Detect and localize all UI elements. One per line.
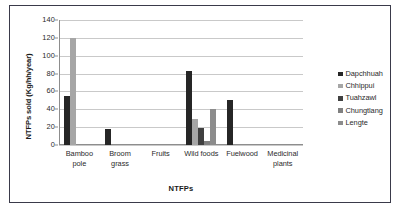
y-axis-tick-label: 40 bbox=[47, 106, 55, 113]
x-axis-tick-labels: Bamboo poleBroom grassFruitsWild foodsFu… bbox=[59, 149, 303, 168]
legend: DapchhuahChhippuiTuahzawlChungtlangLengt… bbox=[338, 70, 383, 127]
y-axis-tick-labels: 020406080100120140 bbox=[28, 20, 55, 145]
legend-item[interactable]: Chhippui bbox=[338, 82, 383, 90]
legend-label: Tuahzawl bbox=[346, 94, 377, 102]
x-axis-tick-label: Bamboo pole bbox=[59, 149, 100, 168]
legend-item[interactable]: Chungtlang bbox=[338, 107, 383, 115]
y-axis-tick-mark bbox=[55, 127, 58, 128]
y-axis-tick-label: 100 bbox=[42, 52, 55, 59]
legend-swatch-icon bbox=[338, 108, 343, 113]
x-axis-tick-label: Fuelwood bbox=[222, 149, 263, 168]
bar-group bbox=[140, 20, 181, 145]
y-axis-tick-label: 120 bbox=[42, 34, 55, 41]
bar-group bbox=[100, 20, 141, 145]
x-axis-tick-label: Fruits bbox=[140, 149, 181, 168]
legend-swatch-icon bbox=[338, 72, 343, 77]
bar-groups bbox=[59, 20, 303, 145]
y-axis-tick-mark bbox=[55, 20, 58, 21]
legend-label: Lengte bbox=[346, 119, 368, 127]
legend-swatch-icon bbox=[338, 96, 343, 101]
bar-group bbox=[59, 20, 100, 145]
x-axis-tick-label: Wild foods bbox=[181, 149, 222, 168]
legend-swatch-icon bbox=[338, 84, 343, 89]
y-axis-tick-mark bbox=[55, 109, 58, 110]
x-axis-title: NTFPs bbox=[59, 184, 303, 193]
bar bbox=[227, 100, 233, 145]
legend-item[interactable]: Dapchhuah bbox=[338, 70, 383, 78]
legend-swatch-icon bbox=[338, 121, 343, 126]
y-axis-tick-label: 20 bbox=[47, 123, 55, 130]
bar bbox=[70, 38, 76, 145]
y-axis-tick-mark bbox=[55, 73, 58, 74]
legend-label: Chhippui bbox=[346, 82, 375, 90]
legend-label: Chungtlang bbox=[346, 107, 383, 115]
legend-item[interactable]: Tuahzawl bbox=[338, 94, 383, 102]
bar-group bbox=[222, 20, 263, 145]
plot-area bbox=[59, 20, 303, 145]
y-axis-tick-label: 140 bbox=[42, 16, 55, 23]
x-axis-tick-label: Broom grass bbox=[100, 149, 141, 168]
bar-group bbox=[262, 20, 303, 145]
y-axis-tick-mark bbox=[55, 145, 58, 146]
legend-item[interactable]: Lengte bbox=[338, 119, 383, 127]
x-axis-tick-label: Medicinal plants bbox=[262, 149, 303, 168]
bar bbox=[105, 129, 111, 145]
y-axis-tick-label: 80 bbox=[47, 70, 55, 77]
legend-label: Dapchhuah bbox=[346, 70, 383, 78]
bar-group bbox=[181, 20, 222, 145]
chart-frame: NTFPs sold (Kg/hh/year) 0204060801001201… bbox=[9, 5, 391, 203]
y-axis-tick-mark bbox=[55, 91, 58, 92]
bar bbox=[210, 109, 216, 145]
y-axis-tick-mark bbox=[55, 55, 58, 56]
gridline bbox=[59, 145, 303, 146]
y-axis-tick-mark bbox=[55, 37, 58, 38]
y-axis-tick-label: 60 bbox=[47, 88, 55, 95]
